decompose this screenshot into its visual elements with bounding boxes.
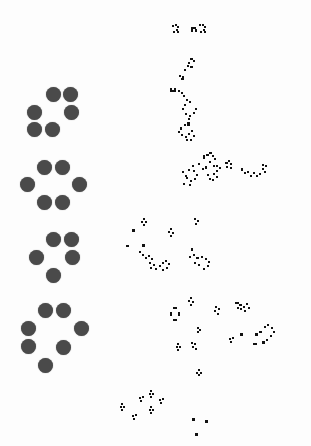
live-cell <box>265 165 267 167</box>
live-cell <box>198 374 200 376</box>
live-cell <box>195 108 197 110</box>
live-cell <box>150 406 152 408</box>
live-cell <box>198 369 200 371</box>
live-cell <box>173 319 177 321</box>
dot-cell <box>63 87 78 102</box>
live-cell <box>262 164 264 166</box>
live-cell <box>179 75 181 77</box>
live-cell <box>229 338 231 340</box>
live-cell <box>205 420 208 423</box>
live-cell <box>180 127 182 130</box>
live-cell <box>243 306 245 308</box>
live-cell <box>174 88 176 92</box>
live-cell <box>139 397 141 399</box>
live-cell <box>162 262 164 264</box>
live-cell <box>176 346 178 348</box>
live-cell <box>244 172 246 174</box>
live-cell <box>149 262 151 264</box>
live-cell <box>141 221 143 223</box>
live-cell <box>168 263 170 265</box>
live-cell <box>207 174 209 176</box>
live-cell <box>200 31 202 33</box>
live-cell <box>159 265 161 267</box>
live-cell <box>216 170 218 172</box>
live-cell <box>189 115 191 117</box>
live-cell <box>172 232 174 234</box>
live-cell <box>170 235 172 237</box>
live-cell <box>148 255 150 257</box>
live-cell <box>195 348 197 350</box>
live-cell <box>218 308 220 310</box>
live-cell <box>185 136 187 138</box>
dot-cell <box>21 321 36 336</box>
live-cell <box>230 163 232 165</box>
live-cell <box>190 66 193 68</box>
live-cell <box>240 333 243 336</box>
live-cell <box>189 101 191 103</box>
live-cell <box>246 303 248 305</box>
dot-cell <box>46 87 61 102</box>
dot-cell <box>27 105 42 120</box>
live-cell <box>195 29 197 32</box>
live-cell <box>228 160 230 162</box>
live-cell <box>140 400 142 402</box>
live-cell <box>189 256 191 258</box>
live-cell <box>216 165 218 167</box>
live-cell <box>188 133 190 135</box>
live-cell <box>198 163 200 165</box>
live-cell <box>253 343 257 345</box>
live-cell <box>184 124 186 126</box>
live-cell <box>209 161 211 163</box>
live-cell <box>214 310 216 312</box>
live-cell <box>153 264 155 266</box>
live-cell <box>187 65 189 67</box>
live-cell <box>160 402 162 404</box>
dot-cell <box>56 340 71 355</box>
live-cell <box>177 26 179 28</box>
live-cell <box>179 346 181 348</box>
game-board <box>0 0 311 446</box>
live-cell <box>203 155 205 159</box>
live-cell <box>181 92 183 94</box>
live-cell <box>186 177 188 179</box>
live-cell <box>230 167 232 169</box>
live-cell <box>149 393 151 395</box>
live-cell <box>216 176 218 178</box>
live-cell <box>150 412 152 414</box>
live-cell <box>183 183 185 185</box>
live-cell <box>199 24 201 26</box>
live-cell <box>121 403 123 405</box>
dot-cell <box>38 358 53 373</box>
live-cell <box>193 60 195 62</box>
live-cell <box>266 339 268 341</box>
live-cell <box>256 175 258 177</box>
live-cell <box>193 254 195 256</box>
live-cell <box>240 308 242 310</box>
live-cell <box>168 231 170 233</box>
live-cell <box>182 108 184 110</box>
live-cell <box>152 409 154 411</box>
live-cell <box>255 333 258 336</box>
live-cell <box>262 341 265 344</box>
live-cell <box>178 90 180 92</box>
live-cell <box>191 130 193 132</box>
live-cell <box>207 265 209 267</box>
live-cell <box>132 415 134 417</box>
live-cell <box>170 312 172 316</box>
live-cell <box>177 31 179 33</box>
live-cell <box>271 327 273 329</box>
live-cell <box>237 307 239 309</box>
live-cell <box>215 306 217 308</box>
live-cell <box>250 175 252 177</box>
live-cell <box>188 169 190 171</box>
live-cell <box>192 165 194 167</box>
live-cell <box>212 155 214 157</box>
live-cell <box>244 310 246 312</box>
live-cell <box>202 168 204 170</box>
live-cell <box>152 393 154 395</box>
live-cell <box>142 244 145 247</box>
live-cell <box>150 396 152 398</box>
live-cell <box>270 335 272 337</box>
live-cell <box>177 343 179 345</box>
live-cell <box>267 324 269 326</box>
